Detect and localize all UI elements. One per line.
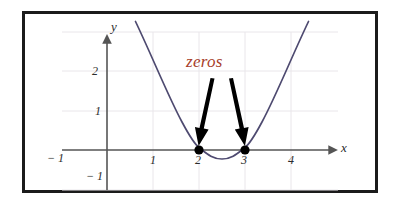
annotation-arrows: [195, 78, 249, 146]
x-tick-label-3: 3: [241, 154, 247, 166]
parabola-curve: [136, 22, 309, 160]
graph-plot-area: [0, 0, 396, 206]
y-tick-label-2: 2: [92, 65, 98, 77]
y-axis-label: y: [111, 20, 117, 33]
annotation-arrow-left: [195, 78, 215, 146]
y-tick-label-neg1: − 1: [86, 170, 103, 182]
zeros-annotation-label: zeros: [186, 53, 223, 70]
x-axis-label: x: [341, 141, 347, 154]
figure-canvas: zeros x y − 1 1 2 3 4 2 1 − 1: [0, 0, 396, 206]
x-tick-label-4: 4: [288, 154, 294, 166]
y-tick-label-1: 1: [95, 105, 101, 117]
x-tick-label-2: 2: [195, 154, 201, 166]
x-tick-label-neg1: − 1: [47, 152, 64, 164]
annotation-arrow-right: [229, 78, 249, 146]
x-tick-label-1: 1: [150, 154, 156, 166]
